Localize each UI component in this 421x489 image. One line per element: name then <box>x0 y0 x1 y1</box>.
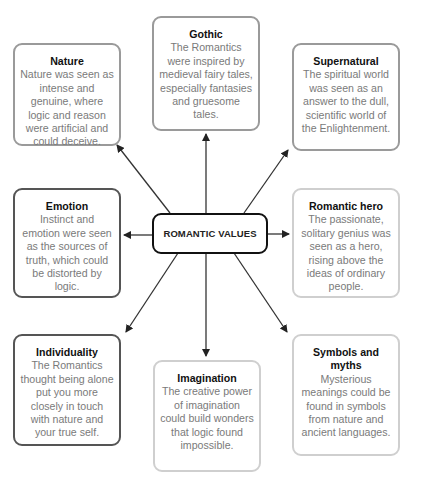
node-individuality: Individuality The Romantics thought bein… <box>13 334 121 446</box>
node-title: Emotion <box>20 200 114 213</box>
arrow-to-individuality <box>126 253 178 332</box>
arrow-to-supernatural <box>244 150 288 213</box>
node-text: The passionate, solitary genius was seen… <box>299 213 393 293</box>
node-text: Instinct and emotion were seen as the so… <box>20 213 114 293</box>
node-title: Supernatural <box>299 55 393 68</box>
node-imagination: Imagination The creative power of imagin… <box>153 360 261 472</box>
node-text: The Romantics thought being alone put yo… <box>20 359 114 439</box>
node-symbols-and-myths: Symbols and myths Mysterious meanings co… <box>292 334 400 456</box>
node-title: Imagination <box>160 372 254 385</box>
arrow-to-symbols <box>234 253 287 332</box>
node-title: Symbols and myths <box>299 346 393 373</box>
node-title: Individuality <box>20 346 114 359</box>
node-text: Nature was seen as intense and genuine, … <box>20 68 114 148</box>
node-emotion: Emotion Instinct and emotion were seen a… <box>13 188 121 298</box>
arrow-to-nature <box>117 145 170 213</box>
node-text: The Romantics were inspired by medieval … <box>159 41 253 121</box>
node-text: Mysterious meanings could be found in sy… <box>299 373 393 440</box>
node-supernatural: Supernatural The spiritual world was see… <box>292 43 400 151</box>
node-title: Gothic <box>159 28 253 41</box>
node-text: The creative power of imagination could … <box>160 385 254 452</box>
node-romantic-hero: Romantic hero The passionate, solitary g… <box>292 188 400 298</box>
node-gothic: Gothic The Romantics were inspired by me… <box>152 16 260 131</box>
center-node-romantic-values: ROMANTIC VALUES <box>152 213 268 254</box>
node-text: The spiritual world was seen as an answe… <box>299 68 393 135</box>
center-label: ROMANTIC VALUES <box>163 228 256 239</box>
node-title: Romantic hero <box>299 200 393 213</box>
node-title: Nature <box>20 55 114 68</box>
node-nature: Nature Nature was seen as intense and ge… <box>13 43 121 146</box>
